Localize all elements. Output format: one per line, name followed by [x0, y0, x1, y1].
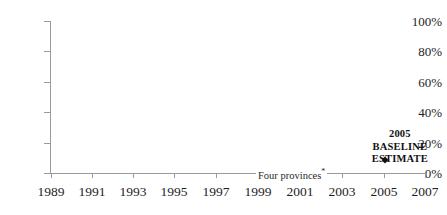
x-axis-tick — [92, 173, 93, 178]
y-axis-tick — [44, 143, 50, 144]
annotation-four-provinces-text: Four provinces — [258, 170, 321, 181]
y-axis-tick — [44, 21, 50, 22]
x-axis-tick — [51, 173, 52, 178]
x-axis-tick — [425, 173, 426, 178]
x-axis-label-1991: 1991 — [70, 184, 114, 199]
annotation-baseline-estimate: 2005 BASELINE ESTIMATE — [372, 128, 428, 166]
footnote-asterisk: * — [321, 167, 325, 176]
estimate-word: ESTIMATE — [372, 153, 428, 166]
y-axis-tick — [44, 51, 50, 52]
x-axis-label-2001: 2001 — [278, 184, 322, 199]
annotation-four-provinces: Four provinces* — [256, 166, 327, 182]
x-axis-label-2003: 2003 — [320, 184, 364, 199]
baseline-year: 2005 — [372, 128, 428, 141]
plot-area — [51, 21, 425, 173]
y-axis-tick — [44, 112, 50, 113]
x-axis-label-1993: 1993 — [111, 184, 155, 199]
x-axis-tick — [384, 173, 385, 178]
x-axis-label-2005: 2005 — [362, 184, 406, 199]
x-axis-tick — [216, 173, 217, 178]
x-axis-label-1999: 1999 — [236, 184, 280, 199]
x-axis-tick — [133, 173, 134, 178]
x-axis-label-1989: 1989 — [29, 184, 73, 199]
x-axis-label-2007: 2007 — [403, 184, 447, 199]
x-axis-tick — [342, 173, 343, 178]
x-axis-tick — [174, 173, 175, 178]
x-axis-label-1995: 1995 — [152, 184, 196, 199]
baseline-word: BASELINE — [372, 141, 428, 154]
y-axis-tick — [44, 82, 50, 83]
x-axis-line — [50, 173, 425, 174]
x-axis-label-1997: 1997 — [194, 184, 238, 199]
